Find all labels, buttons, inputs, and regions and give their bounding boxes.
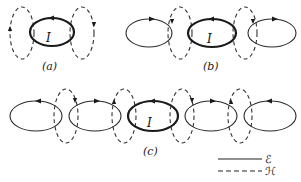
panel-label-b: (b) — [203, 60, 219, 73]
arrow-right-icon — [210, 99, 216, 104]
dashed-loop-magnetic — [112, 89, 136, 143]
arrow-left-icon — [266, 99, 272, 104]
arrow-right-icon — [272, 17, 278, 22]
arrow-left-icon — [48, 16, 54, 21]
legend: ℰ ℋ — [218, 153, 276, 178]
dashed-loop-magnetic — [170, 89, 194, 143]
current-label: I — [206, 32, 212, 46]
arrow-left-icon — [208, 17, 214, 22]
dashed-loop-magnetic — [54, 89, 78, 143]
arrow-up-icon — [112, 99, 116, 104]
arrow-down-icon — [170, 19, 174, 24]
arrow-right-icon — [149, 17, 155, 22]
field-loop — [248, 19, 296, 47]
current-label: I — [146, 116, 152, 130]
panel-label-a: (a) — [42, 60, 57, 73]
panel-c: I (c) — [10, 89, 296, 158]
arrow-right-icon — [94, 99, 100, 104]
arrow-up-icon — [8, 26, 12, 31]
arrow-left-icon — [35, 99, 41, 104]
arrow-down-icon — [190, 98, 194, 103]
current-loop-thick — [188, 19, 236, 47]
arrow-down-icon — [92, 22, 96, 27]
panel-a: I (a) — [8, 7, 96, 73]
current-loop-thick — [30, 18, 74, 46]
field-loop — [126, 19, 172, 47]
legend-label-magnetic: ℋ — [265, 165, 276, 178]
arrow-left-icon — [149, 99, 155, 104]
current-label: I — [45, 31, 51, 45]
dashed-loop-magnetic — [228, 89, 252, 143]
ring-current-field-diagram: I (a) I (b) I (c) — [0, 0, 301, 182]
panel-b: I (b) — [126, 7, 296, 73]
panel-label-c: (c) — [143, 145, 158, 158]
